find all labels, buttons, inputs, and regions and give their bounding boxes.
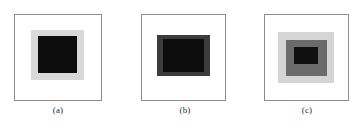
panel-b-caption: (b)	[160, 105, 210, 116]
panel-a-caption: (a)	[33, 105, 83, 116]
panel-a-frame	[14, 14, 102, 101]
panel-c-inner-target	[294, 47, 318, 64]
panel-b-inner-target	[163, 39, 204, 72]
panel-a-inner-target	[38, 36, 77, 73]
panel-c-frame	[264, 14, 349, 101]
panel-b-frame	[141, 14, 226, 101]
panel-c-caption: (c)	[282, 105, 332, 116]
figure-container: (a) (b) (c)	[0, 0, 360, 131]
